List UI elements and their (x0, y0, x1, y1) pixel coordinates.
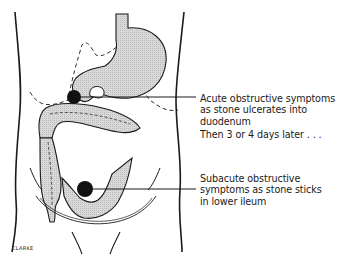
annotation-acute-line-3: duodenum (200, 116, 335, 127)
artist-signature: CLARKE (12, 245, 34, 251)
ileum (62, 158, 132, 218)
annotation-timing: Then 3 or 4 days later . . . (200, 129, 322, 140)
annotation-subacute-line-3: in lower ileum (200, 196, 322, 207)
pubis-right (110, 232, 120, 254)
torso-right-outline (176, 12, 184, 252)
pubis-left (72, 232, 82, 254)
ascending-colon (40, 138, 61, 222)
torso-left-outline (12, 12, 21, 252)
annotation-subacute-line-1: Subacute obstructive (200, 173, 322, 184)
annotation-subacute-obstruction: Subacute obstructive symptoms as stone s… (200, 173, 322, 207)
annotation-acute-line-1: Acute obstructive symptoms (200, 93, 335, 104)
annotation-acute-line-2: as stone ulcerates into (200, 104, 335, 115)
annotation-acute-obstruction: Acute obstructive symptoms as stone ulce… (200, 93, 335, 127)
transverse-colon (39, 104, 140, 138)
duodenum-pocket (90, 86, 104, 98)
annotation-subacute-line-2: symptoms as stone sticks (200, 184, 322, 195)
stomach (73, 14, 167, 102)
pelvic-brim-right (148, 168, 160, 190)
